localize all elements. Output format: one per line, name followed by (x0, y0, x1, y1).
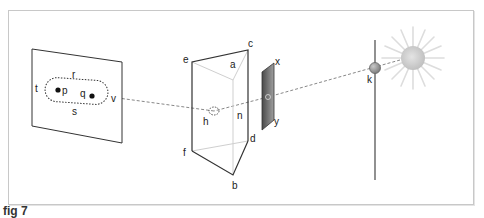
sun-icon (382, 27, 444, 89)
ball-k (370, 63, 381, 74)
label-h: h (203, 116, 209, 127)
point-q-dot (89, 93, 94, 98)
light-ray (118, 60, 400, 111)
label-y: y (274, 116, 279, 127)
label-n: n (237, 110, 243, 121)
figure-caption: fig 7 (3, 204, 28, 218)
label-a: a (230, 59, 236, 70)
label-t: t (35, 83, 38, 94)
label-p: p (62, 85, 68, 96)
label-s: s (72, 106, 77, 117)
point-p-dot (55, 87, 60, 92)
label-d: d (250, 133, 256, 144)
label-q: q (80, 88, 86, 99)
label-c: c (248, 38, 253, 49)
label-f: f (183, 147, 186, 158)
filter-plate: x y (262, 56, 280, 130)
pole: k (367, 40, 381, 180)
label-x: x (275, 56, 280, 67)
label-v: v (111, 93, 116, 104)
optics-diagram: r s t v p q a b c d e f h n x y k (0, 0, 484, 218)
label-e: e (183, 54, 189, 65)
prism: a b c d e f h n (183, 38, 256, 191)
screen: r s t v p q (32, 49, 122, 143)
label-b: b (232, 180, 238, 191)
label-k: k (367, 74, 373, 85)
